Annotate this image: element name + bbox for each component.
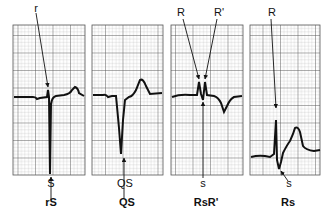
ecg-grid xyxy=(171,25,243,175)
panel-RsR xyxy=(171,19,243,178)
label-R-prime: R' xyxy=(214,6,224,18)
panel-Rs xyxy=(250,19,320,181)
panel-name-Rs: Rs xyxy=(281,196,295,208)
ecg-grid xyxy=(250,25,320,175)
label-R: R xyxy=(177,6,185,18)
panel-rS xyxy=(13,13,85,200)
label-R: R xyxy=(268,6,276,18)
label-s: s xyxy=(286,177,292,189)
panel-name-rS: rS xyxy=(45,196,57,208)
label-QS: QS xyxy=(117,177,133,189)
panel-name-RsR: RsR' xyxy=(194,196,219,208)
label-s: s xyxy=(200,177,206,189)
panel-QS xyxy=(92,25,163,198)
ecg-grid xyxy=(92,25,163,175)
label-S: S xyxy=(47,177,54,189)
label-r: r xyxy=(34,2,38,14)
panel-name-QS: QS xyxy=(119,196,135,208)
